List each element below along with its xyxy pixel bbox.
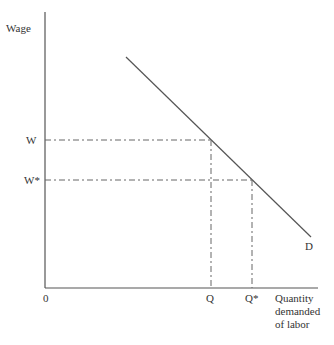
y-axis-label: Wage <box>6 22 31 34</box>
quantity-q-label: Q <box>206 292 214 304</box>
wage-w-label: W <box>26 134 36 146</box>
x-axis-label-line-3: of labor <box>275 318 310 330</box>
origin-label: 0 <box>43 292 49 304</box>
wage-wstar-label: W* <box>24 174 40 186</box>
x-axis-label-line-1: Quantity <box>275 292 314 304</box>
demand-curve <box>126 57 311 237</box>
quantity-qstar-label: Q* <box>245 292 258 304</box>
x-axis-label-line-2: demanded <box>275 305 320 317</box>
curve-label-d: D <box>305 240 313 252</box>
